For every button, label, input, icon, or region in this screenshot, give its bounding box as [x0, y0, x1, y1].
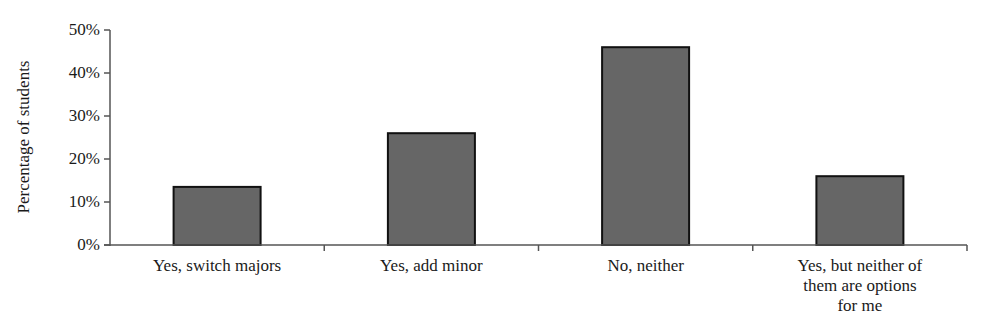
x-category-label: No, neither	[546, 256, 746, 276]
y-tick-label: 20%	[69, 150, 100, 167]
x-category-label: Yes, add minor	[331, 256, 531, 276]
y-axis-title-text: Percentage of students	[14, 61, 34, 214]
y-tick-label: 50%	[69, 21, 100, 38]
bar-chart: Percentage of students 0%10%20%30%40%50%…	[0, 0, 992, 334]
bar	[816, 176, 903, 245]
x-category-label: Yes, switch majors	[117, 256, 317, 276]
x-category-label-line: them are options	[760, 276, 960, 296]
bar	[388, 133, 475, 245]
bar	[174, 187, 261, 245]
bar	[602, 47, 689, 245]
x-category-label-line: Yes, add minor	[331, 256, 531, 276]
x-category-label: Yes, but neither ofthem are optionsfor m…	[760, 256, 960, 316]
x-category-label-line: No, neither	[546, 256, 746, 276]
y-tick-label: 30%	[69, 107, 100, 124]
y-tick-label: 40%	[69, 64, 100, 81]
y-tick-label: 10%	[69, 193, 100, 210]
y-tick-label: 0%	[77, 236, 100, 253]
x-category-label-line: Yes, switch majors	[117, 256, 317, 276]
x-category-label-line: for me	[760, 296, 960, 316]
x-category-label-line: Yes, but neither of	[760, 256, 960, 276]
